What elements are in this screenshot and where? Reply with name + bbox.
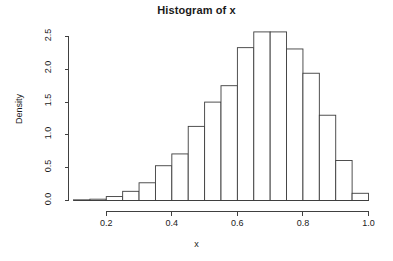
y-tick-label: 1.0 xyxy=(43,120,53,146)
histogram-figure: Histogram of x Density x 0.00.51.01.52.0… xyxy=(0,0,393,261)
histogram-bar xyxy=(106,197,122,201)
histogram-bar xyxy=(270,32,286,201)
x-tick-label: 0.4 xyxy=(157,218,187,228)
histogram-bar xyxy=(139,183,155,201)
histogram-bar xyxy=(172,154,188,201)
x-tick-label: 0.8 xyxy=(288,218,318,228)
y-axis xyxy=(65,37,69,201)
histogram-bar xyxy=(205,102,221,200)
y-tick-label: 0.5 xyxy=(43,153,53,179)
bars-group xyxy=(74,32,369,201)
x-tick-label: 0.6 xyxy=(222,218,252,228)
x-tick-label: 0.2 xyxy=(91,218,121,228)
histogram-bar xyxy=(221,86,237,201)
histogram-bar xyxy=(287,49,303,201)
histogram-bar xyxy=(123,191,139,200)
histogram-bar xyxy=(237,48,253,201)
histogram-bar xyxy=(188,126,204,200)
x-axis xyxy=(106,212,368,216)
y-tick-label: 1.5 xyxy=(43,87,53,113)
x-axis-title: x xyxy=(0,239,393,249)
plot-canvas xyxy=(0,0,393,261)
histogram-bar xyxy=(319,115,335,200)
histogram-bar xyxy=(336,160,352,200)
y-tick-label: 2.5 xyxy=(43,22,53,48)
x-tick-label: 1.0 xyxy=(354,218,384,228)
y-axis-title: Density xyxy=(14,79,24,139)
y-tick-label: 2.0 xyxy=(43,54,53,80)
histogram-bar xyxy=(303,73,319,200)
histogram-bar xyxy=(352,193,368,200)
histogram-bar xyxy=(254,32,270,201)
y-tick-label: 0.0 xyxy=(43,186,53,212)
histogram-bar xyxy=(155,166,171,201)
